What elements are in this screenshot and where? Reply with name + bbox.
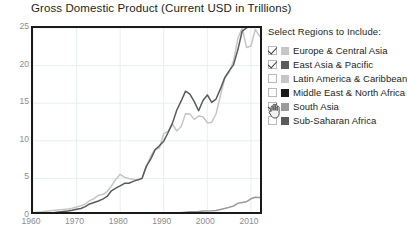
checkbox-unchecked-icon[interactable] xyxy=(268,116,277,125)
x-tick-label: 1970 xyxy=(65,216,84,226)
region-label: South Asia xyxy=(293,101,339,112)
series-color-swatch xyxy=(281,117,289,125)
region-label: Europe & Central Asia xyxy=(293,45,388,56)
x-axis: 196019701980199020002010 xyxy=(31,216,262,230)
y-tick-label: 5 xyxy=(24,172,29,180)
region-checkbox-list: Europe & Central AsiaEast Asia & Pacific… xyxy=(268,44,396,127)
x-tick-label: 1960 xyxy=(22,216,41,226)
region-checkbox-row[interactable]: Latin America & Caribbean xyxy=(268,72,396,85)
checkbox-unchecked-icon[interactable] xyxy=(268,88,277,97)
series-color-swatch xyxy=(281,103,289,111)
plot-inner xyxy=(33,28,260,212)
series-color-swatch xyxy=(281,75,289,83)
series-line xyxy=(33,28,260,212)
x-tick-label: 1990 xyxy=(152,216,171,226)
x-tick-label: 1980 xyxy=(109,216,128,226)
y-tick-label: 20 xyxy=(20,60,29,68)
series-color-swatch xyxy=(281,47,289,55)
page-title: Gross Domestic Product (Current USD in T… xyxy=(31,2,292,14)
region-checkbox-row[interactable]: Sub-Saharan Africa xyxy=(268,114,396,127)
region-checkbox-row[interactable]: East Asia & Pacific xyxy=(268,58,396,71)
region-checkbox-row[interactable]: Europe & Central Asia xyxy=(268,44,396,57)
region-checkbox-row[interactable]: South Asia xyxy=(268,100,396,113)
y-tick-label: 15 xyxy=(20,97,29,105)
figure-caption xyxy=(80,239,310,248)
checkbox-checked-icon[interactable] xyxy=(268,102,277,111)
x-tick-label: 2000 xyxy=(196,216,215,226)
y-axis: 2520151050 xyxy=(0,26,29,214)
region-label: Sub-Saharan Africa xyxy=(293,115,376,126)
region-selector-heading: Select Regions to Include: xyxy=(268,26,396,37)
checkbox-checked-icon[interactable] xyxy=(268,46,277,55)
series-color-swatch xyxy=(281,61,289,69)
series-color-swatch xyxy=(281,89,289,97)
series-lines xyxy=(33,28,260,212)
checkbox-unchecked-icon[interactable] xyxy=(268,74,277,83)
plot-area xyxy=(31,26,262,214)
series-line xyxy=(33,28,260,212)
y-tick-label: 25 xyxy=(20,22,29,30)
region-label: East Asia & Pacific xyxy=(293,59,373,70)
region-checkbox-row[interactable]: Middle East & North Africa xyxy=(268,86,396,99)
x-tick-label: 2010 xyxy=(239,216,258,226)
region-label: Latin America & Caribbean xyxy=(293,73,407,84)
checkbox-checked-icon[interactable] xyxy=(268,60,277,69)
y-tick-label: 10 xyxy=(20,135,29,143)
region-label: Middle East & North Africa xyxy=(293,87,405,98)
region-selector-panel: Select Regions to Include: Europe & Cent… xyxy=(268,26,396,128)
